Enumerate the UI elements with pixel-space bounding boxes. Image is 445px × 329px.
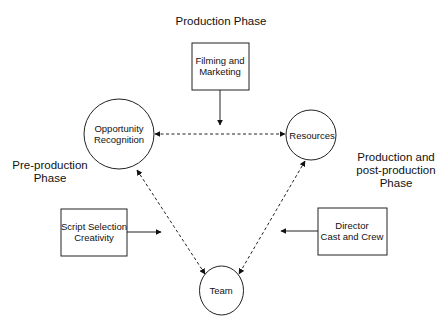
director-line-1: Director (321, 220, 384, 231)
director-line-2: Cast and Crew (321, 231, 384, 242)
opportunity-recognition-label: Opportunity Recognition (94, 123, 144, 145)
filming-line-2: Marketing (195, 66, 244, 77)
filming-marketing-label: Filming and Marketing (195, 55, 244, 77)
pre-production-line-1: Pre-production (12, 159, 87, 172)
resources-text: Resources (289, 130, 334, 141)
resources-label: Resources (289, 130, 334, 141)
post-production-line-2: post-production (356, 164, 435, 177)
script-line-1: Script Selection (61, 221, 127, 232)
team-text: Team (209, 285, 232, 296)
post-production-line-3: Phase (356, 177, 435, 190)
resources-team-link (239, 161, 305, 274)
opportunity-team-link (137, 170, 205, 274)
team-label: Team (209, 285, 232, 296)
post-production-phase-label: Production and post-production Phase (356, 151, 435, 190)
pre-production-phase-label: Pre-production Phase (12, 159, 87, 185)
post-production-line-1: Production and (356, 151, 435, 164)
pre-production-line-2: Phase (12, 172, 87, 185)
opportunity-line-1: Opportunity (94, 123, 144, 134)
opportunity-line-2: Recognition (94, 134, 144, 145)
production-phase-text: Production Phase (176, 15, 267, 27)
production-phase-label: Production Phase (176, 15, 267, 28)
director-cast-label: Director Cast and Crew (321, 220, 384, 242)
script-line-2: Creativity (61, 232, 127, 243)
script-selection-label: Script Selection Creativity (61, 221, 127, 243)
filming-line-1: Filming and (195, 55, 244, 66)
